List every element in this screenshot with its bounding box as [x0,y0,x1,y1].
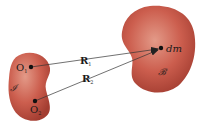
point-o1-dot [29,65,33,69]
label-dm: dm [166,43,182,54]
point-o2-dot [33,99,37,103]
point-dm-dot [159,46,163,50]
body-right [122,6,195,93]
diagram-svg: O1 O2 dm R1 R2 𝓘 𝓑 [0,0,198,129]
label-r2: R2 [82,73,94,85]
label-r1: R1 [80,55,92,67]
diagram-canvas: O1 O2 dm R1 R2 𝓘 𝓑 [0,0,198,129]
